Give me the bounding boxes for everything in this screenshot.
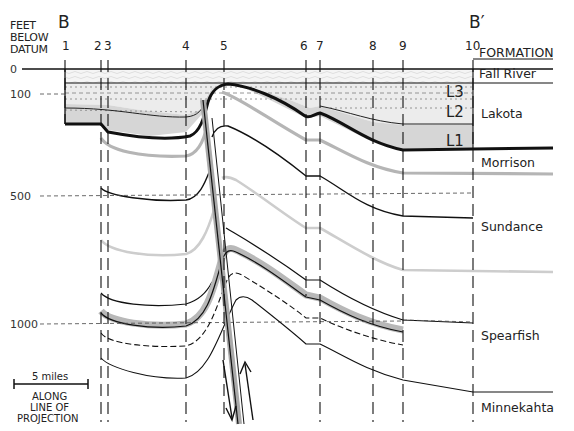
well-label-1: 1 [62,39,70,53]
scale-caption-line-1: ALONG [32,391,67,402]
unit-label-l1: L1 [446,132,464,150]
well-label-3: 3 [104,39,112,53]
fault-arrow-up-icon [240,362,253,420]
well-label-9: 9 [399,39,407,53]
depth-tick-1000: 1000 [10,318,38,331]
depth-tick-100: 100 [10,88,31,101]
well-label-8: 8 [369,39,377,53]
fall-river-layer [65,69,473,83]
well-label-10: 10 [465,39,480,53]
scale-caption-line-2: LINE OF [30,402,69,413]
formation-sundance: Sundance [481,219,543,234]
well-label-6: 6 [300,39,308,53]
cross-section-diagram: FEET BELOW DATUM 0 100 500 1000 B B′ 1 2… [0,0,574,431]
depth-tick-500: 500 [10,190,31,203]
depth-1000-guide [40,321,403,324]
well-label-7: 7 [316,39,324,53]
formation-spearfish: Spearfish [481,328,540,343]
formation-header: FORMATION [479,45,554,60]
minnekahta-top-line [101,297,553,392]
formation-morrison: Morrison [481,155,535,170]
formation-fall-river: Fall River [479,66,537,81]
unit-label-l3: L3 [446,83,464,101]
well-label-4: 4 [182,39,190,53]
scale-caption-line-3: PROJECTION [17,413,79,424]
spearfish-top-line [101,228,473,323]
axis-title-line-3: DATUM [10,43,48,56]
well-label-5: 5 [220,39,228,53]
formation-minnekahta: Minnekahta [481,400,554,415]
scale-bar-label: 5 miles [32,371,68,382]
section-end-label: B′ [469,12,485,32]
formation-lakota: Lakota [481,106,523,121]
depth-tick-0: 0 [10,63,17,76]
spearfish-dashed-line [101,273,403,346]
unit-label-l2: L2 [446,103,464,121]
well-label-2: 2 [94,39,102,53]
section-start-label: B [58,12,70,32]
